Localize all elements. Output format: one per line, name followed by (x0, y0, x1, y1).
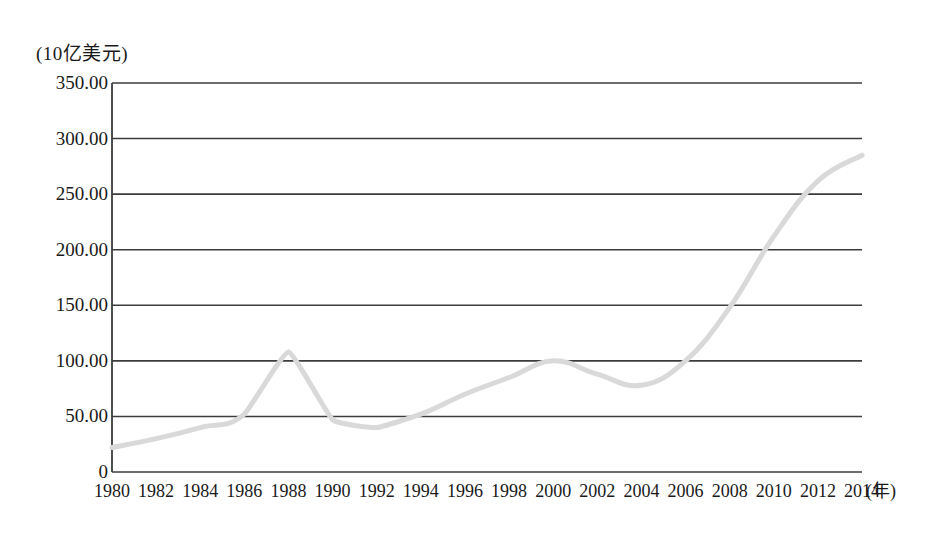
x-tick-label: 1980 (94, 481, 130, 501)
x-tick-label: 1982 (138, 481, 174, 501)
x-tick-label: 1992 (359, 481, 395, 501)
x-tick-label: 2004 (623, 481, 659, 501)
x-tick-label: 2006 (668, 481, 704, 501)
x-tick-label: 1990 (315, 481, 351, 501)
x-tick-label: 1998 (491, 481, 527, 501)
x-tick-label: 2000 (535, 481, 571, 501)
y-tick-label: 350.00 (56, 73, 108, 92)
chart-figure: (10亿美元) 050.00100.00150.00200.00250.0030… (0, 0, 937, 538)
x-tick-label: 2010 (756, 481, 792, 501)
y-tick-label: 0 (99, 462, 109, 481)
y-axis-tick-labels: 050.00100.00150.00200.00250.00300.00350.… (0, 0, 108, 538)
x-tick-label: 2002 (579, 481, 615, 501)
y-tick-label: 300.00 (56, 129, 108, 148)
x-axis-unit-label: (年) (866, 481, 896, 501)
data-series-line (112, 155, 862, 447)
y-tick-label: 150.00 (56, 295, 108, 314)
x-tick-label: 1994 (403, 481, 439, 501)
y-tick-label: 200.00 (56, 240, 108, 259)
x-tick-label: 2012 (800, 481, 836, 501)
x-tick-label: 1984 (182, 481, 218, 501)
x-tick-label: 1996 (447, 481, 483, 501)
y-tick-label: 100.00 (56, 351, 108, 370)
x-tick-label: 1988 (270, 481, 306, 501)
x-tick-label: 2008 (712, 481, 748, 501)
y-tick-label: 250.00 (56, 184, 108, 203)
plot-area (0, 0, 937, 538)
x-tick-label: 1986 (226, 481, 262, 501)
y-tick-label: 50.00 (65, 406, 108, 425)
